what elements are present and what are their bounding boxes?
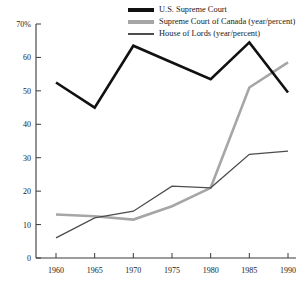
y-axis-tick-labels: 010203040506070% <box>16 20 31 263</box>
y-tick-label: 60 <box>23 53 31 62</box>
y-tick-label: 50 <box>23 87 31 96</box>
x-tick-label: 1975 <box>164 266 180 275</box>
x-axis-tick-labels: 1960196519701975198019851990 <box>48 266 296 275</box>
x-tick-label: 1970 <box>125 266 141 275</box>
y-tick-label: 10 <box>23 221 31 230</box>
y-tick-label: 40 <box>23 120 31 129</box>
series-line-supreme-court-of-canada <box>56 62 288 219</box>
chart-canvas: 010203040506070% 19601965197019751980198… <box>0 0 306 292</box>
x-axis-ticks <box>56 253 288 258</box>
x-tick-label: 1965 <box>87 266 103 275</box>
y-tick-label: 20 <box>23 187 31 196</box>
x-tick-label: 1960 <box>48 266 64 275</box>
x-axis: 1960196519701975198019851990 <box>36 253 296 275</box>
x-tick-label: 1990 <box>280 266 296 275</box>
series-lines <box>56 42 288 238</box>
x-tick-label: 1980 <box>203 266 219 275</box>
y-axis-ticks <box>36 24 41 258</box>
x-tick-label: 1985 <box>241 266 257 275</box>
line-chart: U.S. Supreme Court Supreme Court of Cana… <box>0 0 306 292</box>
y-axis: 010203040506070% <box>16 20 41 263</box>
series-line-house-of-lords <box>56 151 288 238</box>
y-tick-label: 70% <box>16 20 31 29</box>
y-tick-label: 0 <box>27 254 31 263</box>
series-line-us-supreme-court <box>56 42 288 107</box>
y-tick-label: 30 <box>23 154 31 163</box>
